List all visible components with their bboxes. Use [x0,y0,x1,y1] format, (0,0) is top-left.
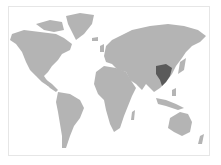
land-australia [168,112,192,136]
land-new-zealand [198,134,204,144]
land-iceland [92,37,98,41]
world-map [0,0,221,165]
land-south-america [56,92,84,148]
land-uk [100,44,104,52]
land-arctic-islands [36,20,64,32]
land-philippines [172,88,176,96]
land-indonesia [156,98,184,110]
land-north-america [10,30,72,86]
land-greenland [66,13,94,40]
land-madagascar [131,110,135,120]
land-central-america [44,78,58,92]
land-masses [10,13,206,148]
